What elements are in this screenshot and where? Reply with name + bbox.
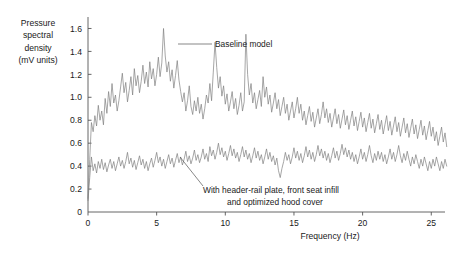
annotation-label-baseline: Baseline model	[215, 39, 272, 49]
series-line-baseline	[88, 28, 447, 198]
x-tick-label: 10	[221, 218, 231, 228]
x-tick-label: 15	[289, 218, 299, 228]
chart-plot: 051015202500.20.40.60.81.01.21.41.6 Base…	[0, 0, 460, 253]
y-tick-label: 1.4	[70, 47, 82, 57]
x-tick-label: 5	[154, 218, 159, 228]
y-tick-label: 0.4	[70, 161, 82, 171]
x-tick-label: 20	[358, 218, 368, 228]
y-tick-label: 0.6	[70, 138, 82, 148]
x-axis-title: Frequency (Hz)	[300, 231, 359, 241]
annotation-label-treated-line-1: With header-rail plate, front seat infil…	[203, 185, 339, 195]
y-tick-label: 1.6	[70, 24, 82, 34]
chart-series	[88, 28, 447, 200]
y-tick-label: 1.2	[70, 70, 82, 80]
y-tick-label: 0.2	[70, 184, 82, 194]
chart-annotations: Baseline modelWith header-rail plate, fr…	[178, 39, 339, 207]
y-tick-label: 1.0	[70, 92, 82, 102]
figure-container: Pressure spectral density (mV units) 051…	[0, 0, 460, 253]
x-tick-label: 0	[86, 218, 91, 228]
annotation-label-treated-line-2: and optimized hood cover	[227, 197, 323, 207]
x-tick-label: 25	[426, 218, 436, 228]
y-tick-label: 0	[77, 207, 82, 217]
y-tick-label: 0.8	[70, 115, 82, 125]
